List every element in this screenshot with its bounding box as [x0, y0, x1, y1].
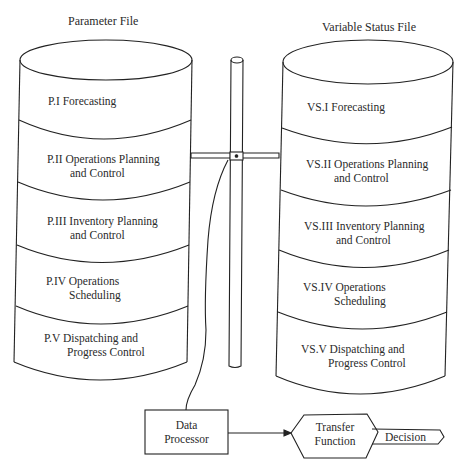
decision-label: Decision	[385, 430, 426, 444]
arrowhead-icon	[284, 430, 291, 436]
variable-status-segment-4: VS.IV Operations Scheduling	[303, 280, 386, 308]
parameter-file-title: Parameter File	[68, 14, 138, 28]
variable-status-segment-5: VS.V Dispatching and Progress Control	[301, 342, 406, 370]
transfer-function-label: Transfer Function	[300, 420, 370, 448]
parameter-segment-3: P.III Inventory Planning and Control	[47, 214, 158, 242]
parameter-segment-1: P.I Forecasting	[48, 94, 116, 108]
connector-pole	[229, 57, 243, 368]
parameter-file-cylinder	[14, 40, 192, 380]
data-processor-label: Data Processor	[145, 418, 228, 446]
parameter-segment-5: P.V Dispatching and Progress Control	[44, 331, 145, 359]
parameter-segment-2: P.II Operations Planning and Control	[47, 152, 160, 180]
variable-status-file-cylinder	[276, 40, 453, 394]
variable-status-segment-1: VS.I Forecasting	[307, 100, 385, 114]
variable-status-file-title: Variable Status File	[322, 20, 416, 34]
crossbar-link	[191, 152, 279, 160]
variable-status-segment-2: VS.II Operations Planning and Control	[306, 157, 428, 185]
parameter-segment-4: P.IV Operations Scheduling	[46, 274, 121, 302]
wire-connector	[186, 160, 228, 410]
variable-status-segment-3: VS.III Inventory Planning and Control	[304, 219, 424, 247]
